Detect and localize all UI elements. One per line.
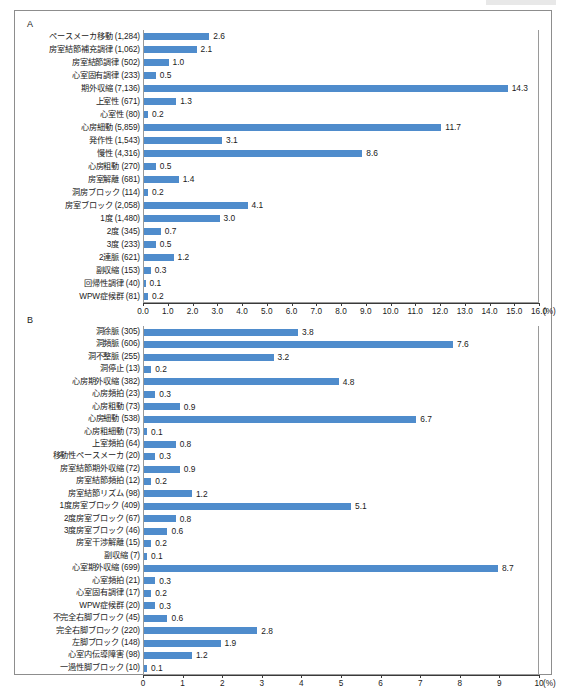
bar-track: 14.3: [143, 82, 551, 95]
panel-b-rows: 洞徐脈 (305)3.8洞頻脈 (606)7.6洞不整脈 (255)3.2洞停止…: [15, 326, 551, 674]
axis-tick: [168, 303, 169, 306]
bar-track: 2.8: [143, 625, 551, 637]
bar-row: 慢性 (4,316)8.6: [15, 147, 551, 160]
axis-tick: [460, 675, 461, 678]
bar: [143, 602, 155, 609]
axis-tick-label: 5: [339, 679, 344, 688]
bar-row-label: 完全右脚ブロック (220): [15, 625, 143, 637]
figure-page: A ペースメーカ移動 (1,284)2.6房室結節補充調律 (1,062)2.1…: [0, 0, 566, 694]
axis-tick: [366, 303, 367, 306]
bar-row-label: 心室期外収縮 (699): [15, 562, 143, 574]
bar-row: 房室結節補充調律 (1,062)2.1: [15, 43, 551, 56]
bar-value-label: 0.2: [155, 537, 167, 549]
bar-value-label: 1.3: [180, 95, 192, 108]
bar: [143, 515, 176, 522]
bar-value-label: 0.3: [155, 264, 167, 277]
bar-row-label: 発作性 (1,543): [15, 134, 143, 147]
bar: [143, 176, 179, 183]
bar: [143, 590, 151, 597]
bar-value-label: 0.7: [165, 225, 177, 238]
bar-track: 5.1: [143, 500, 551, 512]
bar-track: 0.2: [143, 186, 551, 199]
bar-row-label: 心室固有調律 (233): [15, 69, 143, 82]
bar-row: 左脚ブロック (148)1.9: [15, 637, 551, 649]
bar-track: 0.6: [143, 525, 551, 537]
axis-tick: [143, 675, 144, 678]
bar: [143, 329, 298, 336]
bar: [143, 378, 339, 385]
bar: [143, 341, 453, 348]
panel-a-letter: A: [27, 19, 33, 29]
bar-row-label: 房室結節調律 (502): [15, 56, 143, 69]
axis-tick: [222, 675, 223, 678]
bar-value-label: 0.2: [152, 290, 164, 303]
bar-value-label: 8.6: [366, 147, 378, 160]
bar-value-label: 3.0: [224, 212, 236, 225]
bar-row: 1度房室ブロック (409)5.1: [15, 500, 551, 512]
bar: [143, 98, 176, 105]
bar-value-label: 2.1: [201, 43, 213, 56]
bar-track: 1.0: [143, 56, 551, 69]
bar-row-label: 1度 (1,480): [15, 212, 143, 225]
bar: [143, 553, 147, 560]
bar-row: WPW症候群 (20)0.3: [15, 600, 551, 612]
bar-row: 心房粗細動 (73)0.1: [15, 426, 551, 438]
bar-row-label: 心房粗細動 (73): [15, 426, 143, 438]
bar-row: 心房粗動 (270)0.5: [15, 160, 551, 173]
bar-track: 0.2: [143, 108, 551, 121]
bar: [143, 228, 161, 235]
bar-value-label: 1.2: [178, 251, 190, 264]
bar-track: 0.1: [143, 277, 551, 290]
bar-value-label: 0.1: [151, 426, 163, 438]
bar: [143, 665, 147, 672]
axis-tick-label: 3: [260, 679, 265, 688]
bar-value-label: 0.1: [150, 277, 162, 290]
bar-track: 0.8: [143, 513, 551, 525]
axis-tick: [143, 303, 144, 306]
bar-row-label: 心房粗動 (270): [15, 160, 143, 173]
bar: [143, 254, 174, 261]
bar-row: 房室結節調律 (502)1.0: [15, 56, 551, 69]
bar: [143, 441, 176, 448]
bar-row-label: 上室頻拍 (64): [15, 438, 143, 450]
bar-row-label: 期外収縮 (7,136): [15, 82, 143, 95]
bar: [143, 528, 167, 535]
bar-value-label: 4.8: [343, 376, 355, 388]
bar-value-label: 0.5: [160, 160, 172, 173]
bar-track: 0.1: [143, 426, 551, 438]
axis-tick: [391, 303, 392, 306]
panel-a-rows: ペースメーカ移動 (1,284)2.6房室結節補充調律 (1,062)2.1房室…: [15, 30, 551, 303]
bar-row-label: 房室ブロック (2,058): [15, 199, 143, 212]
bar-row: 上室頻拍 (64)0.8: [15, 438, 551, 450]
bar-track: 0.2: [143, 537, 551, 549]
bar-row: 心室期外収縮 (699)8.7: [15, 562, 551, 574]
bar-row: 房室結節リズム (98)1.2: [15, 488, 551, 500]
bar-row: 房室結節頻拍 (12)0.2: [15, 475, 551, 487]
bar: [143, 85, 508, 92]
bar-value-label: 0.2: [152, 108, 164, 121]
bar-row: 洞不整脈 (255)3.2: [15, 351, 551, 363]
bar-track: 2.6: [143, 30, 551, 43]
bar-row: 2度 (345)0.7: [15, 225, 551, 238]
bar-track: 4.8: [143, 376, 551, 388]
axis-tick: [242, 303, 243, 306]
bar-row-label: 房室干渉解離 (15): [15, 537, 143, 549]
bar-row: 完全右脚ブロック (220)2.8: [15, 625, 551, 637]
bar-row-label: 洞不整脈 (255): [15, 351, 143, 363]
bar-row: WPW症候群 (81)0.2: [15, 290, 551, 303]
bar-row: 心房期外収縮 (382)4.8: [15, 376, 551, 388]
bar-row: 房室干渉解離 (15)0.2: [15, 537, 551, 549]
bar-track: 0.9: [143, 401, 551, 413]
bar-row-label: 回帰性調律 (40): [15, 277, 143, 290]
bar-row-label: 心房細動 (538): [15, 413, 143, 425]
axis-tick: [267, 303, 268, 306]
bar-row: 1度 (1,480)3.0: [15, 212, 551, 225]
bar-row: 心室性 (80)0.2: [15, 108, 551, 121]
axis-tick-label: 0: [141, 679, 146, 688]
axis-tick: [440, 303, 441, 306]
bar-track: 3.2: [143, 351, 551, 363]
bar-row: 不完全右脚ブロック (45)0.6: [15, 612, 551, 624]
bar: [143, 453, 155, 460]
axis-tick-label: 9: [497, 679, 502, 688]
bar: [143, 391, 155, 398]
